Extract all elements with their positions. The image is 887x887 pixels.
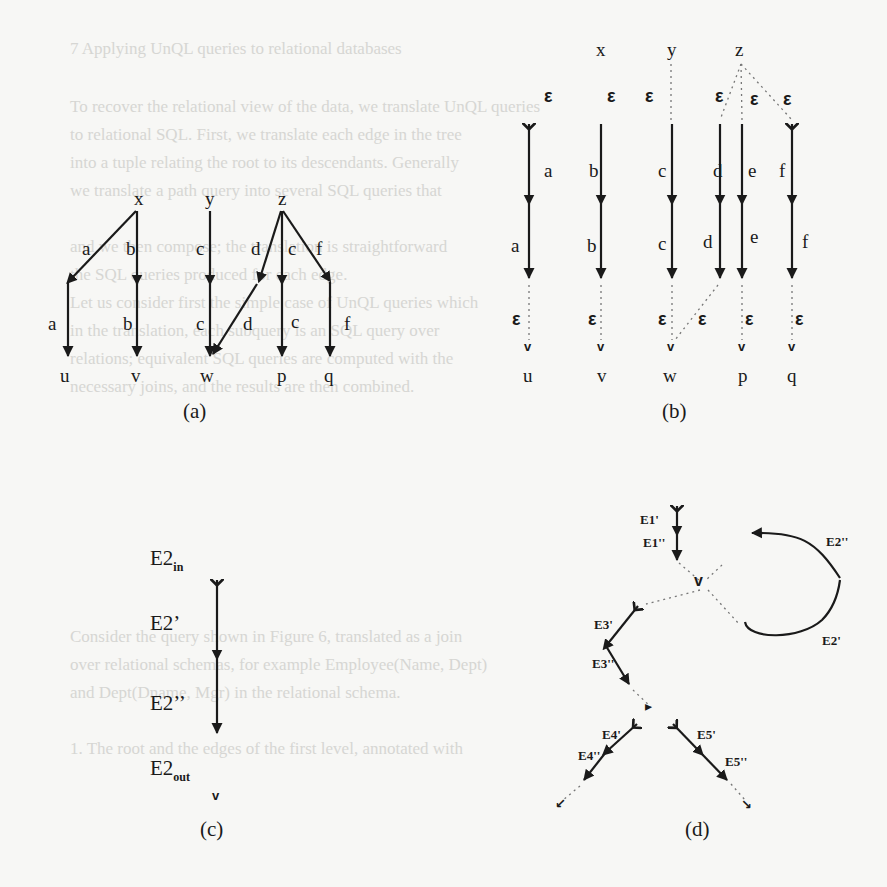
label-e5-dprime: E5''	[725, 754, 747, 769]
panel-b: x y z ε ε ε ε ε ε	[511, 39, 809, 423]
epsilon-edge	[706, 565, 722, 580]
arrowhead-icon: v	[524, 339, 532, 354]
node-y: y	[205, 188, 215, 209]
arrowhead-icon: v	[738, 339, 746, 354]
epsilon-label: ε	[783, 89, 792, 109]
figure: x y z a b c d c f a b c d c f u v w	[0, 0, 887, 887]
epsilon-label: ε	[750, 89, 759, 109]
edge-z-mid-d	[260, 211, 281, 278]
edge-label: b	[123, 313, 133, 334]
node-x: x	[596, 39, 606, 60]
node-e2-out: E2out	[150, 756, 190, 784]
node-v: v	[597, 365, 607, 386]
edge-label: b	[589, 160, 599, 181]
edge-e2-prime	[745, 580, 840, 635]
edge-label: c	[658, 160, 666, 181]
epsilon-label: ε	[645, 86, 654, 106]
epsilon-label: ε	[698, 309, 707, 329]
node-v: v	[131, 365, 141, 386]
panel-c: E2in E2’ E2’’ E2out v (c)	[150, 546, 223, 841]
edge-label: c	[196, 238, 204, 259]
panel-a: x y z a b c d c f a b c d c f u v w	[48, 188, 351, 423]
epsilon-label: ε	[607, 86, 616, 106]
edge-label: c	[196, 313, 204, 334]
junction-arrow-icon: ▸	[645, 698, 652, 714]
epsilon-edge	[646, 590, 700, 604]
node-e2-dprime: E2’’	[150, 691, 186, 715]
edge-label: e	[750, 226, 758, 247]
node-w: w	[200, 365, 214, 386]
arrowhead-icon: v	[788, 339, 796, 354]
arrowhead-icon: ↙	[555, 796, 566, 811]
edge-label: d	[251, 238, 261, 259]
label-e2-prime: E2'	[822, 633, 841, 648]
node-q: q	[324, 365, 334, 386]
label-e1-prime: E1'	[640, 512, 659, 527]
hub-arrow-icon: v	[694, 572, 703, 589]
node-w: w	[663, 365, 677, 386]
edge-e5-prime	[673, 724, 700, 752]
arrowhead-icon: v	[212, 788, 220, 803]
node-y: y	[667, 39, 677, 60]
node-x: x	[134, 188, 144, 209]
node-u: u	[523, 365, 533, 386]
node-q: q	[787, 365, 797, 386]
epsilon-edge	[675, 285, 718, 340]
edge-label: d	[713, 160, 723, 181]
edge-label: f	[316, 238, 323, 259]
node-p: p	[277, 365, 287, 386]
arrowhead-icon: v	[597, 339, 605, 354]
edge-label: a	[48, 313, 57, 334]
epsilon-label: ε	[658, 309, 667, 329]
edge-label: e	[748, 160, 756, 181]
epsilon-label: ε	[512, 309, 521, 329]
arrowhead-icon: ↘	[741, 797, 752, 812]
epsilon-edge	[708, 590, 740, 625]
edge-label: c	[288, 238, 296, 259]
edge-label: b	[587, 235, 597, 256]
edge-label: a	[511, 235, 520, 256]
edge-label: f	[344, 313, 351, 334]
epsilon-label: ε	[715, 86, 724, 106]
epsilon-label: ε	[745, 309, 754, 329]
label-e3-dprime: E3''	[592, 656, 614, 671]
node-e2-in: E2in	[150, 546, 184, 574]
arrowhead-icon: v	[667, 339, 675, 354]
label-e3-prime: E3'	[594, 617, 613, 632]
edge-label: c	[658, 233, 666, 254]
node-u: u	[60, 365, 70, 386]
caption-d: (d)	[685, 817, 710, 841]
edge-e5-dprime	[700, 752, 727, 780]
edge-label: d	[703, 231, 713, 252]
edge-label: a	[544, 160, 553, 181]
edge-label: d	[243, 313, 253, 334]
label-e4-dprime: E4''	[578, 748, 600, 763]
caption-a: (a)	[183, 399, 206, 423]
edge-label: f	[802, 231, 809, 252]
node-z: z	[278, 188, 286, 209]
panel-d: E1' E1'' v E2'' E2' E3' E3'' ▸ E4' E4'' …	[555, 506, 848, 841]
edge-label: a	[82, 238, 91, 259]
node-e2-prime: E2’	[150, 611, 180, 635]
label-e4-prime: E4'	[602, 727, 621, 742]
node-p: p	[738, 365, 748, 386]
caption-b: (b)	[662, 399, 687, 423]
label-e1-dprime: E1''	[643, 535, 665, 550]
edge-label: b	[126, 238, 136, 259]
edge-label: c	[291, 311, 299, 332]
epsilon-label: ε	[795, 309, 804, 329]
epsilon-edge	[741, 64, 742, 120]
caption-c: (c)	[200, 817, 223, 841]
label-e2-dprime: E2''	[826, 534, 848, 549]
epsilon-label: ε	[588, 309, 597, 329]
edge-label: f	[779, 160, 786, 181]
label-e5-prime: E5'	[697, 727, 716, 742]
epsilon-label: ε	[544, 86, 553, 106]
node-z: z	[735, 39, 743, 60]
